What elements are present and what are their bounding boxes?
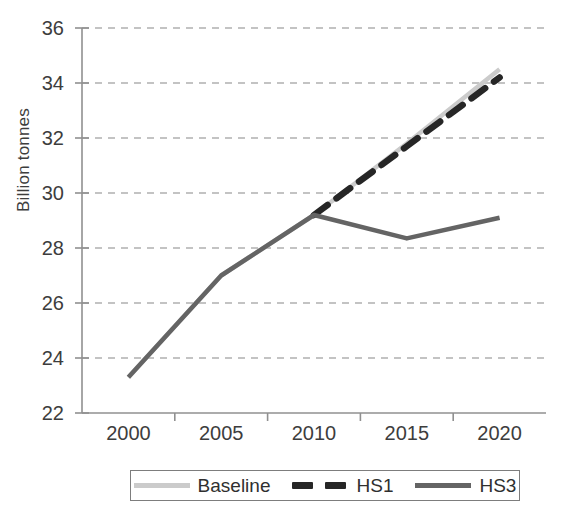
series-line-baseline xyxy=(128,69,499,377)
legend-swatch-icon xyxy=(134,483,190,488)
legend-item[interactable]: HS1 xyxy=(281,476,404,495)
series-line-hs3 xyxy=(128,215,499,377)
legend-item[interactable]: Baseline xyxy=(123,476,282,495)
line-chart: Billion tonnes 3634323028262422 20002005… xyxy=(0,0,580,518)
legend-label: Baseline xyxy=(198,476,271,495)
legend-swatch-icon xyxy=(415,483,471,488)
plot-area xyxy=(0,0,580,518)
legend-item[interactable]: HS3 xyxy=(404,476,527,495)
chart-legend: BaselineHS1HS3 xyxy=(130,470,520,501)
legend-label: HS3 xyxy=(479,476,516,495)
legend-label: HS1 xyxy=(356,476,393,495)
series-line-hs1 xyxy=(314,78,500,216)
legend-swatch-icon xyxy=(292,482,348,489)
